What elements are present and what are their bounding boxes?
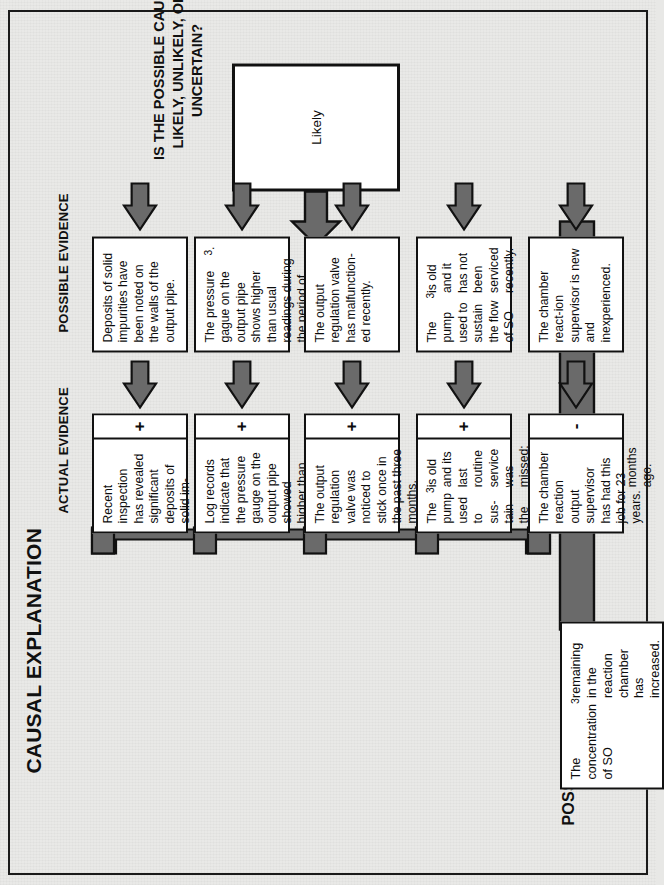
actual-evidence-box[interactable]: Log records indicate that the pressure g… [194, 413, 290, 533]
arrow-cause-to-possible-icon [223, 181, 261, 231]
possible-cause-box[interactable]: The concentration of SO3 remaining in th… [560, 621, 664, 789]
evidence-sign-badge: + [418, 415, 510, 439]
possible-evidence-box[interactable]: The pressure gague on the output pipe sh… [194, 236, 290, 352]
possible-cause-text: The concentration of SO3 remaining in th… [562, 623, 662, 787]
possible-evidence-box[interactable]: The output regulation valve has malfunct… [304, 236, 400, 352]
arrow-possible-to-actual-icon [445, 359, 483, 409]
arrow-cause-to-possible-icon [445, 181, 483, 231]
conclusion-label: Likely [235, 66, 397, 188]
actual-evidence-box[interactable]: The pump used to sus-tain the flow of SO… [416, 413, 512, 533]
possible-evidence-box[interactable]: The pump used to sustain the flow of SO3… [416, 236, 512, 352]
possible-evidence-box[interactable]: Deposits of solid impurities have been n… [92, 236, 188, 352]
actual-evidence-text: Recent inspection has revealed significa… [94, 439, 186, 531]
actual-evidence-text: Log records indicate that the pressure g… [196, 439, 288, 531]
possible-evidence-text: Deposits of solid impurities have been n… [94, 238, 186, 350]
arrow-cause-to-possible-icon [121, 181, 159, 231]
arrow-possible-to-actual-icon [557, 359, 595, 409]
arrow-possible-to-actual-icon [223, 359, 261, 409]
page-title: CAUSAL EXPLANATION [22, 528, 46, 774]
possible-evidence-box[interactable]: The chamber react-ion supervisor is new … [528, 236, 624, 352]
possible-evidence-text: The pump used to sustain the flow of SO3… [418, 238, 510, 350]
evaluation-question: IS THE POSSIBLE CAUSE LIKELY, UNLIKELY, … [150, 0, 207, 165]
actual-evidence-text: The chamber reaction output supervisor h… [530, 439, 622, 531]
column-header-possible-evidence: POSSIBLE EVIDENCE [56, 193, 71, 332]
actual-evidence-box[interactable]: The chamber reaction output supervisor h… [528, 413, 624, 533]
column-header-actual-evidence: ACTUAL EVIDENCE [56, 387, 71, 513]
arrow-possible-to-actual-icon [333, 359, 371, 409]
evidence-sign-badge: + [94, 415, 186, 439]
possible-evidence-text: The pressure gague on the output pipe sh… [196, 238, 288, 350]
evidence-sign-badge: + [196, 415, 288, 439]
evidence-sign-badge: - [530, 415, 622, 439]
possible-evidence-text: The chamber react-ion supervisor is new … [530, 238, 622, 350]
possible-evidence-text: The output regulation valve has malfunct… [306, 238, 398, 350]
actual-evidence-box[interactable]: The output regulation valve was noticed … [304, 413, 400, 533]
arrow-cause-to-possible-icon [333, 181, 371, 231]
evidence-sign-badge: + [306, 415, 398, 439]
arrow-possible-to-actual-icon [121, 359, 159, 409]
actual-evidence-text: The output regulation valve was noticed … [306, 439, 398, 531]
actual-evidence-text: The pump used to sus-tain the flow of SO… [418, 439, 510, 531]
conclusion-box[interactable]: Likely [232, 63, 400, 191]
actual-evidence-box[interactable]: Recent inspection has revealed significa… [92, 413, 188, 533]
arrow-cause-to-possible-icon [557, 181, 595, 231]
